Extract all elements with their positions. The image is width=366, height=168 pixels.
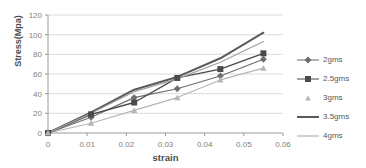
legend-marker-diamond-icon (304, 56, 311, 63)
x-tick-label: 0.03 (158, 140, 174, 149)
series-line-2gms (48, 59, 263, 133)
legend-item-3-5gms[interactable]: 3.5gms (297, 107, 366, 126)
y-tick-label: 20 (33, 109, 42, 118)
x-tick-label: 0.04 (197, 140, 213, 149)
data-point-marker (131, 100, 137, 106)
data-point-marker (260, 65, 266, 71)
legend-item-2-5gms[interactable]: 2.5gms (297, 69, 366, 88)
x-tick-label: 0.02 (119, 140, 135, 149)
x-tick-labels: 00.010.020.030.040.050.06 (46, 140, 292, 149)
y-tick-label: 0 (38, 129, 43, 138)
data-point-marker (217, 66, 223, 72)
data-point-marker (174, 75, 180, 81)
y-tick-label: 100 (29, 31, 43, 40)
x-tick-label: 0.06 (275, 140, 291, 149)
y-tick-label: 60 (33, 70, 42, 79)
x-tick-label: 0.01 (79, 140, 95, 149)
legend-swatch-icon (297, 111, 319, 123)
legend-line-sample (297, 116, 319, 118)
chart-legend: 2gms2.5gms3gms3.5gms4gms (297, 50, 366, 145)
y-tick-label: 80 (33, 50, 42, 59)
legend-item-2gms[interactable]: 2gms (297, 50, 366, 69)
series-line-3gms (48, 68, 263, 133)
y-tick-labels: 020406080100120 (29, 11, 43, 138)
legend-swatch-icon (297, 92, 319, 104)
legend-swatch-icon (297, 130, 319, 142)
legend-label: 3gms (319, 93, 343, 102)
data-point-marker (260, 56, 267, 63)
y-tick-label: 120 (29, 11, 43, 20)
gridlines (48, 15, 283, 113)
legend-label: 4gms (319, 131, 343, 140)
stress-strain-chart: Stress(Mpa) 020406080100120 00.010.020.0… (0, 0, 366, 168)
legend-marker-square-icon (305, 76, 311, 82)
data-point-marker (174, 85, 181, 92)
legend-item-3gms[interactable]: 3gms (297, 88, 366, 107)
legend-label: 3.5gms (319, 112, 349, 121)
legend-swatch-icon (297, 73, 319, 85)
series-lines (48, 33, 263, 133)
y-tick-label: 40 (33, 90, 42, 99)
legend-item-4gms[interactable]: 4gms (297, 126, 366, 145)
data-point-marker (88, 111, 94, 117)
data-point-marker (260, 50, 266, 56)
x-axis-title: strain (48, 152, 283, 163)
x-tick-label: 0 (46, 140, 51, 149)
legend-line-sample (297, 135, 319, 136)
legend-label: 2.5gms (319, 74, 349, 83)
data-point-marker (174, 94, 180, 100)
x-tick-label: 0.05 (236, 140, 252, 149)
legend-swatch-icon (297, 54, 319, 66)
legend-marker-triangle-icon (305, 95, 311, 100)
legend-label: 2gms (319, 55, 343, 64)
